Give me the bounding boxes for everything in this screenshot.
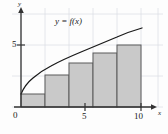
x-axis-arrow (151, 104, 157, 110)
origin-label: 0 (13, 111, 18, 120)
riemann-rectangle (45, 75, 69, 107)
riemann-rectangle (93, 53, 117, 107)
riemann-rectangle (21, 94, 45, 107)
y-tick-label-5: 5 (12, 40, 17, 49)
function-label: y = f(x) (55, 17, 82, 26)
x-axis-name: x (158, 110, 161, 117)
riemann-sum-figure: y x 5 0 5 10 y = f(x) (0, 0, 168, 134)
x-tick-label-5: 5 (82, 112, 87, 121)
riemann-rectangle (117, 45, 141, 107)
y-axis-name: y (18, 1, 21, 8)
riemann-rectangle (69, 63, 93, 107)
x-tick-label-10: 10 (134, 112, 143, 121)
